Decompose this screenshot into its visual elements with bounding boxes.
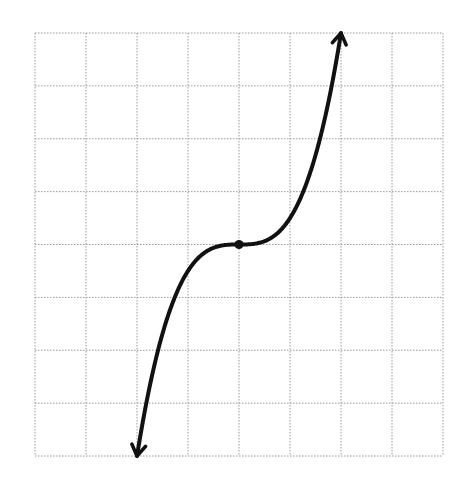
cubic-function-graph xyxy=(0,0,466,492)
inflection-point-marker xyxy=(235,240,244,249)
